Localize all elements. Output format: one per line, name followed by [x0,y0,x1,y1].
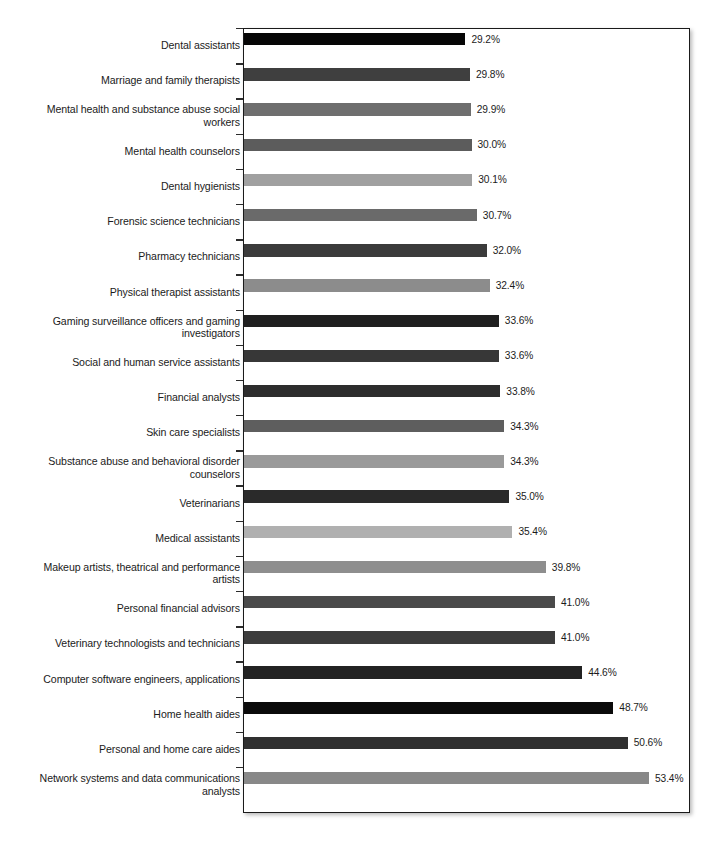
bar-row: Personal financial advisors41.0% [0,591,714,626]
bar-container: 30.1% [244,174,507,186]
axis-tick [236,169,243,170]
bar-value-label: 32.0% [493,245,521,256]
axis-tick [236,556,243,557]
bar-value-label: 33.6% [505,350,533,361]
axis-tick [236,98,243,99]
bar-value-label: 29.8% [476,69,504,80]
bar-row: Financial analysts33.8% [0,380,714,415]
bar-row: Dental assistants29.2% [0,28,714,63]
bar [244,420,504,432]
category-label: Physical therapist assistants [0,286,240,299]
bar [244,455,504,467]
bar-row: Substance abuse and behavioral disorder … [0,450,714,485]
bar-container: 29.8% [244,68,504,80]
axis-tick [236,732,243,733]
bar-value-label: 29.2% [471,34,499,45]
bar-container: 35.4% [244,526,547,538]
bar [244,737,628,749]
bar-container: 33.6% [244,315,533,327]
bar [244,103,471,115]
bar [244,561,546,573]
bar-value-label: 34.3% [510,456,538,467]
bar-value-label: 39.8% [552,562,580,573]
axis-tick [236,415,243,416]
category-label: Personal financial advisors [0,602,240,615]
bar-value-label: 41.0% [561,632,589,643]
axis-tick [236,63,243,64]
bar [244,596,555,608]
bar-container: 50.6% [244,737,662,749]
category-label: Network systems and data communications … [0,772,240,797]
category-label: Marriage and family therapists [0,74,240,87]
bar-value-label: 41.0% [561,597,589,608]
category-label: Dental assistants [0,39,240,52]
category-label: Forensic science technicians [0,215,240,228]
bar-row: Forensic science technicians30.7% [0,204,714,239]
bar-row: Pharmacy technicians32.0% [0,239,714,274]
bar-value-label: 33.8% [506,386,534,397]
bar [244,490,509,502]
axis-tick [236,134,243,135]
bar-container: 41.0% [244,631,589,643]
bar [244,666,582,678]
bar-container: 41.0% [244,596,589,608]
bar [244,385,500,397]
bar-row: Medical assistants35.4% [0,521,714,556]
bar-value-label: 32.4% [496,280,524,291]
bar [244,244,487,256]
bar-container: 39.8% [244,561,580,573]
category-label: Pharmacy technicians [0,250,240,263]
category-label: Mental health counselors [0,145,240,158]
bar-row: Personal and home care aides50.6% [0,732,714,767]
bar-value-label: 30.1% [478,174,506,185]
bar [244,526,512,538]
axis-tick [236,28,243,29]
category-label: Veterinarians [0,497,240,510]
bar-row: Marriage and family therapists29.8% [0,63,714,98]
bar-value-label: 35.4% [518,526,546,537]
bar-row: Makeup artists, theatrical and performan… [0,556,714,591]
bar-container: 34.3% [244,455,539,467]
category-label: Computer software engineers, application… [0,673,240,686]
bar [244,174,472,186]
category-label: Medical assistants [0,532,240,545]
bar [244,315,499,327]
bar-rows: Dental assistants29.2%Marriage and famil… [0,28,714,802]
category-label: Financial analysts [0,391,240,404]
bar-row: Network systems and data communications … [0,767,714,802]
bar-row: Veterinarians35.0% [0,485,714,520]
axis-tick [236,485,243,486]
axis-tick [236,521,243,522]
bar-container: 29.2% [244,33,500,45]
bar-value-label: 33.6% [505,315,533,326]
category-label: Makeup artists, theatrical and performan… [0,561,240,586]
axis-tick [236,591,243,592]
bar-value-label: 34.3% [510,421,538,432]
bar-row: Computer software engineers, application… [0,661,714,696]
bar-container: 34.3% [244,420,539,432]
axis-tick [236,345,243,346]
bar-row: Veterinary technologists and technicians… [0,626,714,661]
bar-value-label: 30.7% [483,210,511,221]
category-label: Social and human service assistants [0,356,240,369]
axis-tick [236,661,243,662]
bar-container: 33.8% [244,385,535,397]
bar-row: Social and human service assistants33.6% [0,345,714,380]
axis-tick [236,204,243,205]
bar-container: 48.7% [244,702,648,714]
axis-tick [236,310,243,311]
category-label: Home health aides [0,708,240,721]
bar-row: Dental hygienists30.1% [0,169,714,204]
bar-value-label: 53.4% [655,773,683,784]
bar-container: 30.0% [244,139,506,151]
bar-row: Mental health counselors30.0% [0,134,714,169]
bar-container: 44.6% [244,666,617,678]
bar-value-label: 29.9% [477,104,505,115]
bar [244,209,477,221]
bar-row: Gaming surveillance officers and gaming … [0,310,714,345]
bar [244,33,465,45]
bar [244,139,472,151]
axis-tick [236,767,243,768]
category-label: Skin care specialists [0,426,240,439]
axis-tick [236,697,243,698]
